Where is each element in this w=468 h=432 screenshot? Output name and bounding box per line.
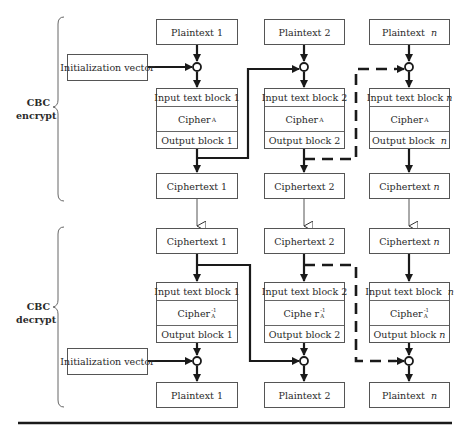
cipher-subscript: A [424,116,428,123]
n-var: n [431,27,437,38]
encrypt-cipher-block-2: Input text block 2 CipherA Output block … [264,88,345,149]
n-var: n [441,135,447,146]
inverse-cipher-function: Cipher-1A [157,301,237,326]
encrypt-ciphertext-1: Ciphertext 1 [156,173,238,199]
decrypt-iv-box: Initialization vector [67,348,148,375]
encrypt-ciphertext-2: Ciphertext 2 [264,173,345,199]
n-var: n [431,390,437,401]
n-var: n [446,92,452,103]
cipher-subscript: A [320,313,325,319]
box-text: Output block [374,329,440,340]
output-block: Output block 1 [157,132,237,148]
cbc-decrypt-label: CBC decrypt [16,300,50,326]
decrypt-plaintext-1: Plaintext 1 [156,382,238,408]
cipher-function: CipherA [370,107,449,132]
input-text-block: Input text block 1 [157,89,237,107]
inverse-cipher-function: Ciphe r-1A [265,301,344,326]
cipher-subscript: A [319,116,323,123]
decrypt-cipher-block-n: Input text block n Cipher-1A Output bloc… [369,282,450,343]
label-line: decrypt [16,313,50,326]
box-text: Input text block [367,92,446,103]
input-text-block: Input text block n [370,283,449,301]
decrypt-ciphertext-2: Ciphertext 2 [264,228,345,254]
cipher-sup-sub: -1A [211,307,216,319]
decrypt-ciphertext-n: Ciphertext n [369,228,450,254]
cipher-label: Cipher [285,114,318,125]
decrypt-cipher-block-1: Input text block 1 Cipher-1A Output bloc… [156,282,238,343]
n-var: n [434,181,440,192]
cipher-label: Cipher [390,308,423,319]
encrypt-cipher-block-1: Input text block 1 CipherA Output block … [156,88,238,149]
cipher-label: Cipher [178,114,211,125]
inverse-cipher-function: Cipher-1A [370,301,449,326]
input-text-block: Input text block 1 [157,283,237,301]
input-text-block: Input text block 2 [265,89,344,107]
encrypt-plaintext-2: Plaintext 2 [264,19,345,45]
encrypt-cipher-block-n: Input text block n CipherA Output block … [369,88,450,149]
cipher-function: CipherA [265,107,344,132]
encrypt-ciphertext-n: Ciphertext n [369,173,450,199]
box-text: Plaintext [382,27,431,38]
input-text-block: Input text block 2 [265,283,344,301]
cipher-label: Ciphe r [283,308,319,319]
output-block: Output block 2 [265,132,344,148]
input-text-block: Input text block n [370,89,449,107]
cipher-sup-sub: -1A [320,307,325,319]
cipher-sup-sub: -1A [424,307,429,319]
output-block: Output block 2 [265,326,344,342]
encrypt-brace [53,17,64,201]
label-line: CBC [16,96,50,109]
output-block: Output block n [370,326,449,342]
box-text: Input text block [365,286,448,297]
n-var: n [434,236,440,247]
decrypt-cipher-block-2: Input text block 2 Ciphe r-1A Output blo… [264,282,345,343]
cipher-function: CipherA [157,107,237,132]
output-block: Output block 1 [157,326,237,342]
decrypt-plaintext-n: Plaintext n [369,382,450,408]
label-line: encrypt [16,109,50,122]
n-var: n [439,329,445,340]
box-text: Plaintext [382,390,431,401]
output-block: Output block n [370,132,449,148]
cipher-label: Cipher [177,308,210,319]
cbc-encrypt-label: CBC encrypt [16,96,50,122]
box-text: Output block [372,135,441,146]
decrypt-ciphertext-1: Ciphertext 1 [156,228,238,254]
box-text: Ciphertext [379,181,433,192]
cipher-subscript: A [211,313,216,319]
n-var: n [448,286,454,297]
cipher-label: Cipher [390,114,423,125]
encrypt-plaintext-1: Plaintext 1 [156,19,238,45]
box-text: Ciphertext [379,236,433,247]
cipher-subscript: A [424,313,429,319]
label-line: CBC [16,300,50,313]
cipher-subscript: A [212,116,216,123]
encrypt-iv-box: Initialization vector [67,54,148,81]
encrypt-plaintext-n: Plaintext n [369,19,450,45]
decrypt-plaintext-2: Plaintext 2 [264,382,345,408]
